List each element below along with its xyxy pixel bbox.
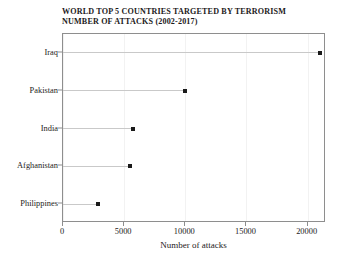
data-point-marker: [96, 202, 100, 206]
y-tick-mark: [58, 127, 62, 128]
y-tick-mark: [58, 165, 62, 166]
lollipop-stem: [63, 166, 130, 167]
chart-title-line-2: NUMBER OF ATTACKS (2002-2017): [62, 17, 338, 27]
lollipop-stem: [63, 52, 320, 53]
x-tick-label: 20000: [296, 227, 317, 236]
lollipop-stem: [63, 204, 98, 205]
x-axis-title: Number of attacks: [62, 240, 325, 250]
x-tick-mark: [245, 222, 246, 226]
data-point-row: [63, 85, 324, 96]
data-point-row: [63, 47, 324, 58]
data-point-row: [63, 123, 324, 134]
y-tick-mark: [58, 51, 62, 52]
y-tick-mark: [58, 89, 62, 90]
x-tick-mark: [307, 222, 308, 226]
y-tick-label: Iraq: [45, 47, 58, 56]
x-tick-label: 10000: [174, 227, 195, 236]
y-tick-label: India: [41, 123, 58, 132]
data-point-marker: [183, 89, 187, 93]
data-point-row: [63, 161, 324, 172]
lollipop-stem: [63, 128, 133, 129]
y-tick-label: Philippines: [20, 199, 58, 208]
data-point-marker: [318, 51, 322, 55]
chart-title-line-1: WORLD TOP 5 COUNTRIES TARGETED BY TERROR…: [62, 7, 338, 17]
x-tick-mark: [123, 222, 124, 226]
data-series-layer: [63, 34, 324, 221]
x-tick-label: 15000: [235, 227, 256, 236]
data-point-marker: [128, 164, 132, 168]
x-tick-label: 0: [60, 227, 64, 236]
data-point-marker: [131, 127, 135, 131]
y-tick-label: Afghanistan: [17, 161, 58, 170]
y-tick-mark: [58, 203, 62, 204]
lollipop-stem: [63, 90, 185, 91]
x-tick-label: 5000: [115, 227, 132, 236]
chart-title: WORLD TOP 5 COUNTRIES TARGETED BY TERROR…: [62, 7, 338, 28]
y-tick-label: Pakistan: [30, 85, 58, 94]
data-point-row: [63, 199, 324, 210]
x-tick-mark: [184, 222, 185, 226]
chart-figure: WORLD TOP 5 COUNTRIES TARGETED BY TERROR…: [0, 0, 340, 260]
plot-area: [62, 33, 325, 222]
x-tick-mark: [62, 222, 63, 226]
